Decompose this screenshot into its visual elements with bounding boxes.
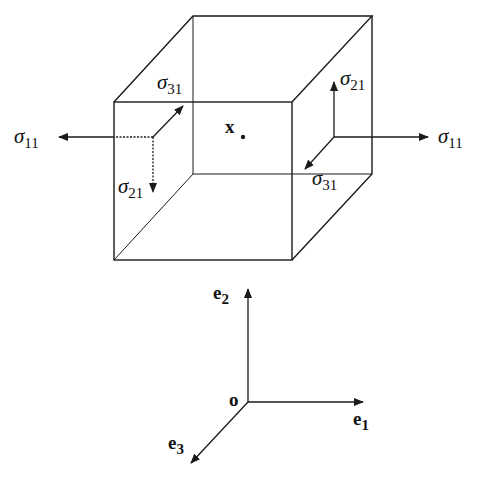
cube-top-face: [114, 16, 372, 102]
point-x-label: x: [225, 116, 235, 137]
sigma11-right-label: σ11: [438, 124, 463, 151]
sigma31-left-label: σ31: [157, 70, 182, 97]
origin-label: o: [229, 389, 239, 410]
sigma31-right-label: σ31: [312, 166, 337, 193]
e3-axis-arrow: [191, 402, 248, 463]
point-x-dot: [241, 135, 245, 139]
sigma21-right-label: σ21: [340, 66, 365, 93]
e2-label: e2: [213, 282, 229, 307]
sigma31-right-arrow: [305, 137, 334, 169]
sigma21-left-label: σ21: [118, 174, 143, 201]
cube-right-face: [292, 16, 372, 260]
stress-diagram: x σ11 σ31 σ21 σ11 σ21 σ31 o e2 e1 e3: [0, 0, 478, 477]
sigma11-left-label: σ11: [14, 124, 39, 151]
e3-label: e3: [168, 432, 184, 457]
e1-label: e1: [353, 408, 369, 433]
sigma31-left-arrow: [153, 106, 183, 137]
coordinate-axes: [191, 289, 363, 463]
right-face-stresses: [305, 82, 428, 169]
cube-front-face: [114, 102, 292, 260]
